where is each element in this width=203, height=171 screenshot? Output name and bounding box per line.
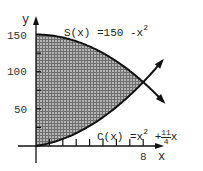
c-curve-equation: C(x) =x2 +114x [97, 126, 177, 146]
x-axis-label: x [158, 151, 165, 163]
c-equation-text: C(x) =x [97, 131, 143, 143]
fraction-denominator: 4 [161, 138, 171, 146]
y-tick-label-100: 100 [7, 66, 27, 78]
y-axis-label: y [22, 14, 29, 26]
y-axis-arrow-icon [33, 16, 39, 25]
c-equation-exponent: 2 [143, 127, 148, 136]
c-equation-plus: + [155, 131, 162, 143]
y-tick-label-150: 150 [7, 30, 27, 42]
s-equation-exponent: 2 [143, 23, 148, 32]
c-equation-x: x [171, 131, 178, 143]
s-curve-equation: S(x) =150 -x2 [64, 22, 148, 39]
y-tick-label-50: 50 [14, 104, 27, 116]
s-equation-text: S(x) =150 -x [64, 27, 143, 39]
c-equation-fraction: 114 [161, 129, 171, 146]
x-tick-label-8: 8 [140, 151, 147, 163]
